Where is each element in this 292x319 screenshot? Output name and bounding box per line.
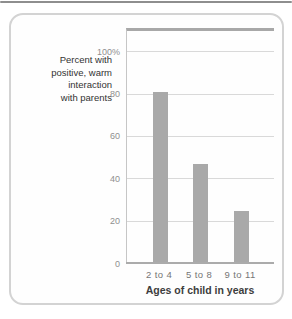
y-tick-label: 100% — [76, 47, 120, 57]
y-tick-label: 80 — [76, 89, 120, 99]
gridline — [127, 136, 274, 137]
y-tick-label: 60 — [76, 131, 120, 141]
plot-area — [126, 28, 274, 264]
gridline — [127, 51, 274, 52]
page-top-rule — [0, 1, 292, 3]
y-tick-label: 20 — [76, 216, 120, 226]
bar-2-to-4 — [153, 92, 168, 264]
x-axis-line — [126, 262, 274, 264]
bar-9-to-11 — [234, 211, 249, 264]
figure-root: Percent with positive, warm interaction … — [0, 0, 292, 319]
y-tick-label: 40 — [76, 174, 120, 184]
x-tick-label: 9 to 11 — [210, 269, 270, 280]
gridline — [127, 94, 274, 95]
bar-5-to-8 — [193, 164, 208, 264]
x-axis-title: Ages of child in years — [111, 284, 289, 296]
y-axis-title-line: positive, warm — [12, 67, 112, 80]
y-tick-label: 0 — [76, 259, 120, 269]
